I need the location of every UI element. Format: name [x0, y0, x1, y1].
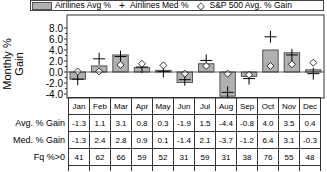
table-row: Avg. % Gain-1.31.13.10.80.3-1.91.5-4.4-0…: [0, 115, 321, 132]
median-plus-feb: [93, 53, 105, 65]
sp500-diamond-may: [160, 62, 167, 69]
table-cell: 48: [300, 149, 321, 166]
row-label: Med. % Gain: [0, 132, 69, 149]
table-cell: 0.8: [132, 115, 153, 132]
table-cell: 3.1: [111, 115, 132, 132]
y-tick-label: -2.0: [46, 78, 64, 89]
table-cell: -4.4: [216, 115, 237, 132]
table-cell: 34: [174, 166, 195, 172]
table-cell: 45: [300, 166, 321, 172]
table-cell: 2.4: [90, 132, 111, 149]
table-cell: 0.9: [132, 132, 153, 149]
table-cell: -1.3: [69, 132, 90, 149]
table-cell: 52: [279, 166, 300, 172]
row-label-empty: [0, 98, 69, 115]
table-cell: 62: [111, 166, 132, 172]
month-header: Sep: [237, 98, 258, 115]
row-label: Avg. % Gain: [0, 115, 69, 132]
table-cell: 1.1: [90, 115, 111, 132]
row-label: Fq %>0: [0, 149, 69, 166]
month-header: Jul: [195, 98, 216, 115]
table-cell: 62: [90, 149, 111, 166]
table-cell: 76: [258, 149, 279, 166]
table-cell: -1.4: [174, 132, 195, 149]
table-cell: 6.4: [258, 132, 279, 149]
table-cell: 52: [153, 149, 174, 166]
table-cell: 4.0: [258, 115, 279, 132]
table-cell: -0.8: [237, 115, 258, 132]
y-tick-label: 0.0: [49, 67, 63, 78]
table-cell: 55: [279, 149, 300, 166]
table-cell: 2.1: [195, 132, 216, 149]
table-cell: 59: [195, 149, 216, 166]
table-cell: 41: [69, 166, 90, 172]
table-row: Fq %>S&P 500415962483834523152665245: [0, 166, 321, 172]
table-cell: 3.1: [279, 132, 300, 149]
table-cell: 66: [258, 166, 279, 172]
table-cell: -1.9: [174, 115, 195, 132]
sp500-diamond-apr: [138, 60, 145, 67]
y-tick-label: 8.0: [49, 23, 63, 34]
table-row: Fq %>0416266595231593138765548: [0, 149, 321, 166]
month-header: May: [153, 98, 174, 115]
y-tick-label: 4.0: [49, 45, 63, 56]
data-table: JanFebMarAprMayJunJulAugSepOctNovDecAvg.…: [0, 97, 321, 171]
table-cell: -1.2: [237, 132, 258, 149]
y-tick-label: 6.0: [49, 34, 63, 45]
median-plus-oct: [264, 31, 276, 43]
table-cell: 38: [153, 166, 174, 172]
row-label: Fq %>S&P 500: [0, 166, 69, 172]
table-cell: 59: [132, 149, 153, 166]
table-cell: 0.4: [300, 115, 321, 132]
month-header: Nov: [279, 98, 300, 115]
table-cell: -3.7: [216, 132, 237, 149]
month-header: Jan: [69, 98, 90, 115]
table-cell: -0.3: [300, 132, 321, 149]
table-row: Med. % Gain-1.32.42.80.90.1-1.42.1-3.7-1…: [0, 132, 321, 149]
table-cell: 0.3: [153, 115, 174, 132]
month-header: Feb: [90, 98, 111, 115]
table-cell: 3.5: [279, 115, 300, 132]
table-cell: 31: [216, 166, 237, 172]
table-cell: 2.8: [111, 132, 132, 149]
table-cell: 59: [90, 166, 111, 172]
table-cell: 31: [216, 149, 237, 166]
month-header: Dec: [300, 98, 321, 115]
table-cell: 48: [132, 166, 153, 172]
table-cell: 1.5: [195, 115, 216, 132]
table-cell: 31: [174, 149, 195, 166]
table-cell: 52: [237, 166, 258, 172]
y-tick-label: 2.0: [49, 56, 63, 67]
month-header: Apr: [132, 98, 153, 115]
chart-plot: 8.06.04.02.00.0-2.0-4.0: [0, 0, 327, 100]
table-cell: 66: [111, 149, 132, 166]
table-cell: -1.3: [69, 115, 90, 132]
table-header-row: JanFebMarAprMayJunJulAugSepOctNovDec: [0, 98, 321, 115]
table-cell: 52: [195, 166, 216, 172]
table-cell: 38: [237, 149, 258, 166]
table-cell: 0.1: [153, 132, 174, 149]
month-header: Oct: [258, 98, 279, 115]
month-header: Aug: [216, 98, 237, 115]
sp500-diamond-dec: [310, 59, 317, 66]
month-header: Jun: [174, 98, 195, 115]
table-cell: 41: [69, 149, 90, 166]
month-header: Mar: [111, 98, 132, 115]
